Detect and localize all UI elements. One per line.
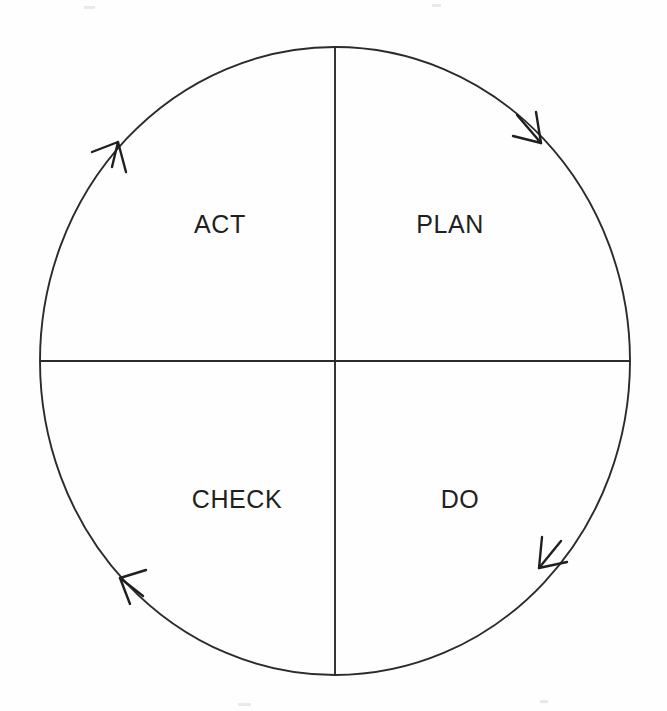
arrow-do-icon: [539, 537, 567, 568]
arrow-plan-icon: [513, 112, 541, 143]
quadrant-label-do: DO: [441, 485, 480, 513]
arrow-act-icon: [92, 142, 126, 172]
scan-noise: [84, 4, 548, 706]
quadrant-label-check: CHECK: [192, 485, 283, 513]
pdca-cycle-svg: ACT PLAN CHECK DO: [0, 0, 667, 711]
quadrant-label-act: ACT: [194, 210, 246, 238]
quadrant-label-plan: PLAN: [416, 210, 484, 238]
pdca-diagram: ACT PLAN CHECK DO: [0, 0, 667, 711]
